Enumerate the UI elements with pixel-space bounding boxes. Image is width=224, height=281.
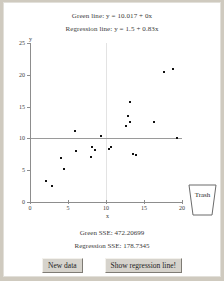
x-tick-label: 15 bbox=[141, 205, 147, 211]
data-point[interactable] bbox=[51, 185, 53, 187]
y-tick bbox=[27, 170, 31, 171]
show-regression-line-button[interactable]: Show regression line! bbox=[105, 258, 182, 273]
data-point[interactable] bbox=[91, 146, 93, 148]
green-line-equation: Green line: y = 10.017 + 0x bbox=[4, 12, 220, 20]
data-point[interactable] bbox=[176, 137, 178, 139]
data-point[interactable] bbox=[100, 135, 102, 137]
data-point[interactable] bbox=[94, 149, 96, 151]
data-point[interactable] bbox=[74, 130, 76, 132]
trash-can[interactable]: Trash bbox=[186, 183, 219, 217]
x-tick bbox=[106, 200, 107, 204]
y-tick bbox=[27, 107, 31, 108]
regression-sse-value: Regression SSE: 178.7345 bbox=[4, 242, 220, 250]
data-point[interactable] bbox=[172, 68, 174, 70]
regression-line-equation: Regression line: y = 1.5 + 0.83x bbox=[4, 25, 220, 33]
data-point[interactable] bbox=[90, 156, 92, 158]
data-point[interactable] bbox=[63, 168, 65, 170]
data-point[interactable] bbox=[60, 157, 62, 159]
data-point[interactable] bbox=[75, 150, 77, 152]
data-point[interactable] bbox=[163, 71, 165, 73]
y-axis-label: y bbox=[29, 36, 32, 42]
y-tick-label: 15 bbox=[19, 104, 25, 110]
x-tick bbox=[30, 200, 31, 204]
plot-area[interactable]: y x 051015202505101520 bbox=[22, 41, 184, 208]
trash-label: Trash bbox=[186, 191, 219, 199]
data-point[interactable] bbox=[45, 180, 47, 182]
y-tick bbox=[27, 138, 31, 139]
data-point[interactable] bbox=[125, 125, 127, 127]
data-point[interactable] bbox=[135, 154, 137, 156]
data-point[interactable] bbox=[129, 121, 131, 123]
scatter-plot[interactable]: y x 051015202505101520 bbox=[22, 41, 184, 208]
y-tick bbox=[27, 75, 31, 76]
regression-applet: Green line: y = 10.017 + 0x Regression l… bbox=[3, 2, 221, 277]
green-reference-line[interactable] bbox=[30, 138, 182, 139]
y-tick-label: 0 bbox=[22, 199, 25, 205]
button-row: New data Show regression line! bbox=[4, 258, 220, 273]
new-data-button[interactable]: New data bbox=[42, 258, 83, 273]
x-tick bbox=[144, 200, 145, 204]
x-tick bbox=[68, 200, 69, 204]
green-sse-value: Green SSE: 472.20699 bbox=[4, 229, 220, 237]
data-point[interactable] bbox=[127, 115, 129, 117]
x-axis-label: x bbox=[106, 213, 109, 219]
trash-shape bbox=[186, 183, 219, 217]
y-tick-label: 25 bbox=[19, 40, 25, 46]
vertical-gridline bbox=[106, 43, 107, 202]
x-tick-label: 20 bbox=[179, 205, 185, 211]
x-tick-label: 0 bbox=[29, 205, 32, 211]
data-point[interactable] bbox=[110, 146, 112, 148]
data-point[interactable] bbox=[129, 101, 131, 103]
y-tick-label: 20 bbox=[19, 72, 25, 78]
y-tick-label: 10 bbox=[19, 135, 25, 141]
y-tick bbox=[27, 43, 31, 44]
x-tick-label: 5 bbox=[67, 205, 70, 211]
x-tick bbox=[182, 200, 183, 204]
y-axis bbox=[30, 43, 31, 203]
x-tick-label: 10 bbox=[103, 205, 109, 211]
data-point[interactable] bbox=[153, 121, 155, 123]
y-tick-label: 5 bbox=[22, 167, 25, 173]
